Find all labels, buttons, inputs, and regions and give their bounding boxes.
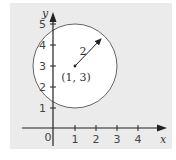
y-tick-label: 1 [39, 102, 46, 115]
center-label: (1, 3) [61, 71, 91, 84]
x-tick-label: 1 [72, 133, 79, 146]
x-tick-label: 4 [135, 133, 142, 146]
origin-label: 0 [45, 131, 52, 144]
center-point [74, 65, 77, 68]
x-tick-label: 3 [114, 133, 121, 146]
coordinate-diagram: 1 2 3 4 0 1 2 3 4 5 x y 2 (1, 3) [0, 0, 176, 160]
x-tick-label: 2 [93, 133, 100, 146]
y-tick-label: 3 [39, 60, 46, 73]
x-axis-label: x [160, 133, 167, 146]
y-tick-label: 2 [39, 81, 46, 94]
y-axis-label: y [41, 7, 49, 20]
y-tick-label: 4 [39, 39, 46, 52]
radius-label: 2 [80, 45, 87, 58]
